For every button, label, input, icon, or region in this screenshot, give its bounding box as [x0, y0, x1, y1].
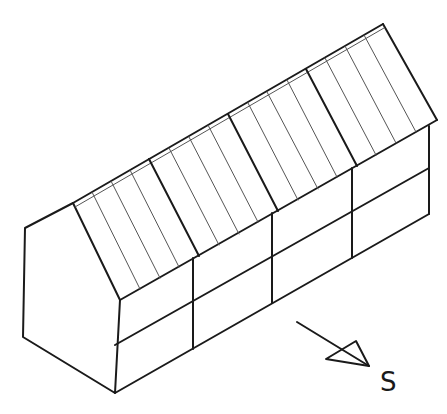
long-facade	[115, 126, 429, 393]
building-diagram: S	[0, 0, 447, 414]
solar-panel-strips	[92, 35, 416, 289]
compass-label-s: S	[380, 367, 397, 397]
solar-panel-dividers	[149, 69, 357, 256]
south-arrow-icon	[297, 322, 369, 366]
gable-end-wall	[23, 203, 120, 393]
roof-outline	[73, 24, 437, 300]
